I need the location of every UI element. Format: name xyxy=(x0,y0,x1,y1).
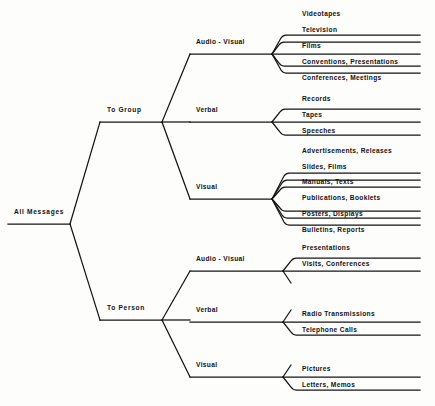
edge-root-to-group xyxy=(70,122,100,224)
leaf-label-films: Films xyxy=(302,43,321,50)
leaf-label-television: Television xyxy=(302,27,337,34)
leaf-line-videotapes xyxy=(272,35,420,54)
node-label-to-person: To Person xyxy=(107,305,145,312)
leaf-label-radio: Radio Transmissions xyxy=(302,311,375,318)
node-label-group-verbal: Verbal xyxy=(196,107,218,114)
edge-group-visual xyxy=(162,122,190,199)
edge-group-audiovisual xyxy=(162,54,190,122)
leaf-label-telephone: Telephone Calls xyxy=(302,327,357,334)
node-label-to-group: To Group xyxy=(107,107,142,114)
leaf-label-pictures: Pictures xyxy=(302,366,331,373)
edge-person-visual xyxy=(162,320,190,377)
leaf-label-records: Records xyxy=(302,96,331,103)
message-classification-diagram: All Messages To Group To Person Audio - … xyxy=(0,0,435,406)
leaf-label-slides-films: Slides, Films xyxy=(302,164,347,171)
leaf-line-records xyxy=(272,109,420,122)
leaf-label-videotapes: Videotapes xyxy=(302,11,341,18)
leaf-label-presentations: Presentations xyxy=(302,245,350,252)
edge-root-to-person xyxy=(70,224,100,320)
node-label-person-visual: Visual xyxy=(196,362,217,369)
leaf-label-publications: Publications, Booklets xyxy=(302,195,380,202)
node-label-person-audio-visual: Audio - Visual xyxy=(196,256,245,263)
leaf-label-letters: Letters, Memos xyxy=(302,382,355,389)
person-visual-fan-stub xyxy=(283,365,291,377)
leaf-label-visits: Visits, Conferences xyxy=(302,261,370,268)
node-label-group-visual: Visual xyxy=(196,184,217,191)
leaf-label-posters: Posters, Displays xyxy=(302,211,363,218)
edge-person-audiovisual xyxy=(162,271,190,320)
leaf-line-speeches xyxy=(272,122,420,135)
leaf-label-conventions: Conventions, Presentations xyxy=(302,59,398,66)
leaf-label-tapes: Tapes xyxy=(302,112,322,119)
leaf-label-speeches: Speeches xyxy=(302,128,336,135)
person-verbal-fan-stub xyxy=(283,310,291,322)
leaf-label-conferences: Conferences, Meetings xyxy=(302,75,382,82)
leaf-label-advertisements: Advertisements, Releases xyxy=(302,148,392,155)
leaf-label-manuals-texts: Manuals, Texts xyxy=(302,179,354,186)
node-label-group-audio-visual: Audio - Visual xyxy=(196,39,245,46)
leaf-line-television xyxy=(272,42,420,54)
node-label-person-verbal: Verbal xyxy=(196,307,218,314)
leaf-label-bulletins: Bulletins, Reports xyxy=(302,227,365,234)
node-label-all-messages: All Messages xyxy=(14,209,64,216)
person-av-fan-stub xyxy=(283,271,291,283)
